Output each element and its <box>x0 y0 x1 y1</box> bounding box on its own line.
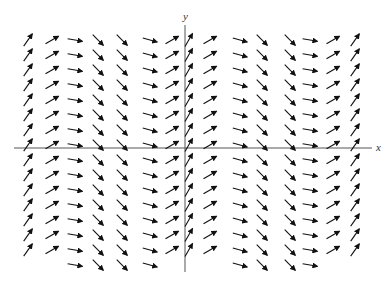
slope-arrow <box>327 246 340 254</box>
slope-arrow <box>93 110 104 121</box>
slope-arrow <box>233 158 247 162</box>
slope-arrow <box>327 216 340 224</box>
slope-arrow <box>93 65 104 76</box>
slope-arrow <box>46 36 59 44</box>
slope-arrow <box>24 49 33 61</box>
slope-arrow <box>327 36 340 44</box>
slope-arrow <box>185 154 193 167</box>
slope-arrow <box>93 215 104 226</box>
slope-arrow <box>143 128 157 132</box>
slope-arrow <box>68 129 83 132</box>
slope-arrow <box>24 169 33 181</box>
slope-arrow <box>68 99 83 102</box>
slope-arrow <box>93 185 104 196</box>
slope-arrow <box>46 246 59 254</box>
slope-arrow <box>185 199 193 212</box>
slope-arrow <box>327 201 340 209</box>
slope-arrow <box>117 170 128 181</box>
slope-arrow <box>166 216 179 224</box>
slope-arrow <box>143 173 157 177</box>
arrow-group <box>24 34 360 271</box>
slope-arrow <box>285 245 296 256</box>
slope-arrow <box>143 38 157 42</box>
slope-arrow <box>93 95 104 106</box>
slope-arrow <box>351 109 360 121</box>
slope-arrow <box>117 260 128 271</box>
slope-arrow <box>117 35 128 46</box>
slope-arrow <box>303 249 318 252</box>
slope-arrow <box>143 248 157 252</box>
slope-arrow <box>351 139 360 151</box>
slope-arrow <box>204 36 217 44</box>
slope-arrow <box>233 98 247 102</box>
slope-arrow <box>143 158 157 162</box>
slope-arrow <box>93 245 104 256</box>
slope-arrow <box>303 204 318 207</box>
slope-arrow <box>285 200 296 211</box>
slope-arrow <box>93 230 104 241</box>
slope-arrow <box>257 95 268 106</box>
slope-arrow <box>303 129 318 132</box>
slope-arrow <box>166 96 179 104</box>
slope-arrow <box>257 170 268 181</box>
slope-arrow <box>68 264 83 267</box>
slope-arrow <box>166 81 179 89</box>
slope-arrow <box>303 39 318 42</box>
slope-arrow <box>204 96 217 104</box>
slope-arrow <box>93 155 104 166</box>
slope-arrow <box>285 230 296 241</box>
slope-arrow <box>285 65 296 76</box>
slope-arrow <box>68 249 83 252</box>
slope-arrow <box>351 184 360 196</box>
slope-arrow <box>257 200 268 211</box>
slope-arrow <box>257 110 268 121</box>
slope-arrow <box>24 184 33 196</box>
slope-arrow <box>204 246 217 254</box>
slope-arrow <box>327 51 340 59</box>
slope-arrow <box>285 140 296 151</box>
slope-arrow <box>46 126 59 134</box>
slope-arrow <box>24 214 33 226</box>
slope-arrow <box>24 139 33 151</box>
slope-arrow <box>257 50 268 61</box>
slope-arrow <box>327 186 340 194</box>
slope-arrow <box>257 155 268 166</box>
slope-arrow <box>257 35 268 46</box>
slope-arrow <box>233 53 247 57</box>
slope-arrow <box>303 174 318 177</box>
slope-arrow <box>166 66 179 74</box>
slope-arrow <box>117 200 128 211</box>
slope-arrow <box>351 229 360 241</box>
slope-arrow <box>24 109 33 121</box>
slope-arrow <box>24 64 33 76</box>
slope-arrow <box>327 66 340 74</box>
slope-arrow <box>233 113 247 117</box>
slope-arrow <box>233 38 247 42</box>
slope-arrow <box>351 154 360 166</box>
slope-field: x y <box>0 0 391 285</box>
slope-arrow <box>166 186 179 194</box>
slope-arrow <box>351 94 360 106</box>
slope-arrow <box>185 169 193 182</box>
slope-arrow <box>46 201 59 209</box>
slope-arrow <box>117 140 128 151</box>
slope-arrow <box>46 81 59 89</box>
slope-arrow <box>303 144 318 147</box>
slope-arrow <box>204 126 217 134</box>
slope-arrow <box>204 231 217 239</box>
slope-arrow <box>46 111 59 119</box>
slope-arrow <box>117 230 128 241</box>
slope-arrow <box>166 111 179 119</box>
slope-arrow <box>257 230 268 241</box>
slope-arrow <box>143 83 157 87</box>
slope-arrow <box>204 186 217 194</box>
slope-arrow <box>351 169 360 181</box>
slope-arrow <box>68 39 83 42</box>
slope-arrow <box>93 200 104 211</box>
slope-arrow <box>46 231 59 239</box>
slope-arrow <box>233 203 247 207</box>
slope-arrow <box>46 66 59 74</box>
slope-arrow <box>303 54 318 57</box>
slope-arrow <box>233 188 247 192</box>
slope-arrow <box>93 140 104 151</box>
